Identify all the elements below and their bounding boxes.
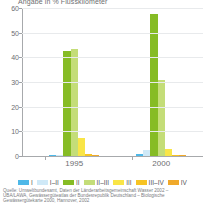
y-axis: 0102030405060 <box>3 8 19 156</box>
chart-plot-area: 0102030405060 19952000 <box>0 8 205 166</box>
bar <box>158 80 165 156</box>
x-axis-group-label: 2000 <box>131 159 191 168</box>
bar <box>165 149 172 156</box>
bar <box>150 14 157 156</box>
bar <box>56 155 63 156</box>
legend-item[interactable]: III <box>113 179 131 186</box>
y-axis-tick-label: 20 <box>3 103 19 110</box>
legend-item[interactable]: II–III <box>84 179 110 186</box>
chart-legend: II–IIIIII–IIIIIIIII–IVIV <box>0 176 205 188</box>
source-note: Quelle: Umweltbundesamt, Daten der Lände… <box>3 188 202 204</box>
page-title: Angabe in % Flusskilometer <box>18 0 107 5</box>
bar <box>85 154 92 156</box>
bar <box>143 150 150 156</box>
legend-label: I <box>31 179 33 186</box>
bar <box>78 138 85 157</box>
legend-swatch-icon <box>84 180 95 185</box>
legend-label: III <box>126 179 131 186</box>
y-axis-tick <box>19 156 22 157</box>
y-axis-tick-label: 40 <box>3 54 19 61</box>
gridline <box>22 131 203 132</box>
gridline <box>22 107 203 108</box>
legend-label: IV <box>181 179 187 186</box>
legend-label: II–III <box>97 179 110 186</box>
legend-item[interactable]: I <box>18 179 33 186</box>
gridline <box>22 82 203 83</box>
legend-item[interactable]: IV <box>168 179 187 186</box>
y-axis-tick-label: 50 <box>3 29 19 36</box>
x-axis-line <box>22 156 203 157</box>
bar <box>172 155 179 156</box>
legend-swatch-icon <box>113 180 124 185</box>
bar <box>63 51 70 156</box>
y-axis-tick-label: 10 <box>3 128 19 135</box>
y-axis-tick-label: 30 <box>3 79 19 86</box>
legend-swatch-icon <box>37 180 48 185</box>
bar <box>71 49 78 156</box>
y-axis-tick-label: 60 <box>3 5 19 12</box>
gridline <box>22 57 203 58</box>
gridline <box>22 33 203 34</box>
legend-item[interactable]: III–IV <box>136 179 164 186</box>
legend-swatch-icon <box>18 180 29 185</box>
legend-swatch-icon <box>63 180 74 185</box>
source-line: Gewässergütekarte 2000, Hannover, 2002 <box>3 198 202 203</box>
y-axis-tick-label: 0 <box>3 153 19 160</box>
legend-swatch-icon <box>168 180 179 185</box>
gridline <box>22 8 203 9</box>
legend-item[interactable]: I–II <box>37 179 59 186</box>
legend-label: I–II <box>50 179 59 186</box>
bar <box>136 154 143 156</box>
bar <box>92 155 99 156</box>
legend-swatch-icon <box>136 180 147 185</box>
bar <box>179 155 186 156</box>
bar <box>49 155 56 156</box>
x-axis-group-label: 1995 <box>44 159 104 168</box>
legend-label: III–IV <box>149 179 164 186</box>
legend-label: II <box>76 179 80 186</box>
legend-item[interactable]: II <box>63 179 80 186</box>
